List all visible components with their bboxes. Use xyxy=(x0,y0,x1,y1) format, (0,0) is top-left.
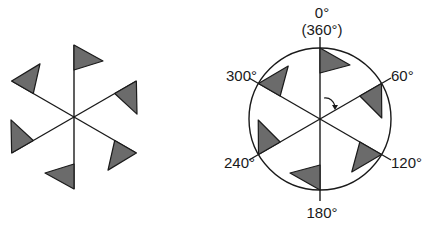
label-0-degrees: 0° xyxy=(315,4,329,21)
left-pinwheel-figure xyxy=(0,45,151,189)
flag-arm-240 xyxy=(234,93,320,160)
rotational-symmetry-diagram: 0° (360°) 300° 60° 240° 120° 180° xyxy=(0,0,427,229)
flag-arm-60 xyxy=(320,78,406,145)
label-120-degrees: 120° xyxy=(391,154,422,171)
label-180-degrees: 180° xyxy=(306,204,337,221)
right-pinwheel-figure xyxy=(234,37,406,201)
label-360-degrees: (360°) xyxy=(301,21,342,38)
flag-arm-0 xyxy=(74,45,103,117)
label-300-degrees: 300° xyxy=(226,67,257,84)
flag-arm-60 xyxy=(74,81,151,142)
flag-arm-180 xyxy=(45,117,74,189)
flag-arm-240 xyxy=(0,92,74,153)
label-240-degrees: 240° xyxy=(224,154,255,171)
label-60-degrees: 60° xyxy=(391,67,414,84)
clockwise-arrow-icon xyxy=(324,98,338,110)
